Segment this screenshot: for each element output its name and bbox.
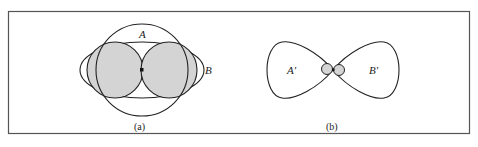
center-point: [140, 68, 144, 72]
shaded-circle-right: [141, 42, 197, 98]
diagram: A B (a) A' B' (b): [0, 0, 478, 147]
figure-border: [9, 12, 470, 134]
caption-b: (b): [326, 121, 338, 133]
center-point-b: [332, 69, 335, 72]
caption-a: (a): [134, 121, 145, 133]
label-b-prime: B': [369, 64, 379, 76]
label-a-prime: A': [286, 64, 297, 76]
shaded-circle-left: [87, 42, 143, 98]
small-shaded-circle-left: [322, 64, 333, 75]
label-b: B: [205, 64, 212, 76]
panel-b: A' B' (b): [267, 42, 399, 133]
label-a: A: [138, 28, 146, 40]
panel-a: A B (a): [80, 24, 212, 133]
small-shaded-circle-right: [334, 65, 345, 76]
